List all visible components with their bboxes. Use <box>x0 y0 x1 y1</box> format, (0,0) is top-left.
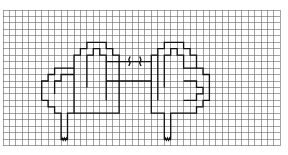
center-mark-right <box>140 56 141 66</box>
grid-lines <box>3 10 280 146</box>
right-motif-inner-step <box>184 81 203 100</box>
center-mark-left <box>129 56 130 66</box>
stitch-mark-right <box>164 138 171 140</box>
stitch-mark-left <box>61 138 68 140</box>
right-motif-outer <box>151 42 209 139</box>
left-motif-inner-step <box>55 75 74 94</box>
pattern-grid-chart <box>0 0 288 155</box>
